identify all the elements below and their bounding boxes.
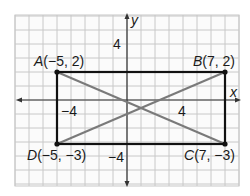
- label-point-a: A(−5, 2): [33, 53, 84, 69]
- label-point-a-coords: (−5, 2): [43, 53, 84, 69]
- point-b: [222, 69, 227, 74]
- label-point-b-name: B: [193, 53, 202, 69]
- label-point-d-coords: (−5, −3): [37, 147, 86, 163]
- tick-label-x-pos4: 4: [178, 103, 186, 119]
- x-axis-label: x: [229, 84, 238, 100]
- tick-label-y-pos4: 4: [113, 36, 121, 52]
- point-c: [222, 141, 227, 146]
- point-a: [54, 69, 59, 74]
- coordinate-plane-figure: y x 4 −4 4 −4 A(−5, 2) B(7, 2) C(7, −3) …: [0, 0, 250, 196]
- coordinate-plane: y x 4 −4 4 −4 A(−5, 2) B(7, 2) C(7, −3) …: [0, 0, 250, 196]
- point-d: [54, 141, 59, 146]
- label-point-a-name: A: [33, 53, 43, 69]
- label-point-d: D(−5, −3): [27, 147, 86, 163]
- label-point-d-name: D: [27, 147, 37, 163]
- label-point-c-coords: (7, −3): [194, 147, 235, 163]
- label-point-b: B(7, 2): [193, 53, 235, 69]
- label-point-b-coords: (7, 2): [202, 53, 235, 69]
- tick-label-y-neg4: −4: [108, 149, 124, 165]
- y-axis-label: y: [130, 12, 139, 28]
- tick-label-x-neg4: −4: [61, 103, 77, 119]
- label-point-c: C(7, −3): [184, 147, 235, 163]
